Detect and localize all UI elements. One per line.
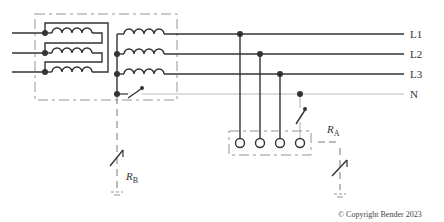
primary-coil-3 [52,67,92,72]
secondary-coil-2 [124,49,164,54]
primary-coil-1 [52,28,92,33]
secondary-coil-3 [124,69,164,74]
label-L3: L3 [410,69,422,80]
rb-earth-resistor [110,97,123,195]
secondary-coil-1 [124,29,164,34]
copyright-notice: © Copyright Bender 2023 [338,210,422,219]
primary-delta-winding [12,23,108,72]
label-L1: L1 [410,29,422,40]
consumer-taps [240,34,305,138]
bus-lines [142,34,404,94]
label-rb: RB [126,171,138,185]
consumer-terminal-box [229,131,311,155]
label-L2: L2 [410,49,422,60]
transformer-enclosure [35,14,177,100]
ra-earth-resistor [318,142,347,197]
label-ra: RA [327,124,340,138]
earthing-diagram: L1 L2 L3 N RB RA © Copyright Bender 2023 [0,0,444,222]
secondary-star-winding [117,34,124,94]
label-N: N [410,89,418,100]
star-point-switch [117,86,144,98]
primary-coil-2 [52,48,92,53]
diagram-canvas [0,0,444,222]
